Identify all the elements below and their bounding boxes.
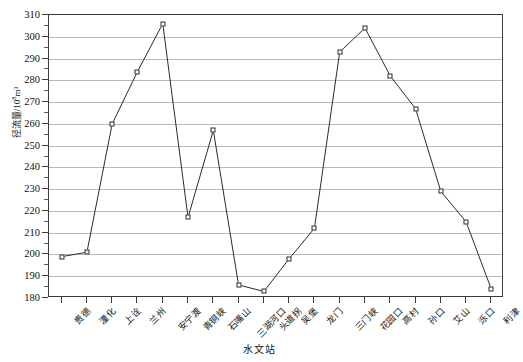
x-axis-tick-label: 艾山	[450, 305, 472, 327]
x-axis-tick-mark	[364, 297, 365, 303]
data-point	[287, 256, 292, 261]
data-point	[110, 121, 115, 126]
data-point	[236, 282, 241, 287]
data-point	[438, 189, 443, 194]
y-axis-tick-label: 280	[0, 74, 40, 85]
y-axis-tick-label: 270	[0, 96, 40, 107]
data-point	[160, 21, 165, 26]
data-point	[186, 215, 191, 220]
y-axis-tick-label: 290	[0, 52, 40, 63]
y-axis-tick-label: 180	[0, 292, 40, 303]
x-axis-tick-label: 青铜峡	[200, 305, 228, 333]
data-point	[413, 106, 418, 111]
series-polyline	[49, 15, 504, 298]
x-axis-tick-label: 泺口	[475, 305, 497, 327]
x-axis-tick-label: 上诠	[121, 305, 143, 327]
data-point	[489, 287, 494, 292]
x-axis-tick-label: 安宁渡	[175, 305, 203, 333]
y-axis-tick-label: 220	[0, 204, 40, 215]
y-axis-tick-label: 190	[0, 270, 40, 281]
x-axis-tick-mark	[288, 297, 289, 303]
data-point	[388, 73, 393, 78]
x-axis-tick-mark	[490, 297, 491, 303]
data-point	[464, 219, 469, 224]
data-point	[312, 226, 317, 231]
y-axis-tick-mark	[42, 297, 48, 298]
data-point	[211, 128, 216, 133]
x-axis-tick-label: 三门峡	[352, 305, 380, 333]
x-axis-tick-mark	[313, 297, 314, 303]
y-axis-tick-label: 200	[0, 248, 40, 259]
x-axis-title: 水文站	[0, 341, 518, 356]
x-axis-tick-mark	[187, 297, 188, 303]
y-axis-tick-label: 210	[0, 226, 40, 237]
x-axis-tick-mark	[339, 297, 340, 303]
plot-area	[48, 14, 503, 297]
y-axis-tick-label: 260	[0, 117, 40, 128]
x-axis-tick-label: 利津	[501, 305, 523, 327]
x-axis-tick-mark	[238, 297, 239, 303]
y-axis-tick-label: 310	[0, 9, 40, 20]
x-axis-tick-label: 龙门	[324, 305, 346, 327]
x-axis-tick-mark	[465, 297, 466, 303]
x-axis-tick-mark	[212, 297, 213, 303]
x-axis-tick-mark	[415, 297, 416, 303]
x-axis-tick-mark	[389, 297, 390, 303]
x-axis-tick-mark	[136, 297, 137, 303]
x-axis-tick-mark	[61, 297, 62, 303]
y-axis-title: 径流量/108m³	[10, 53, 23, 173]
y-axis-tick-label: 250	[0, 139, 40, 150]
x-axis-tick-label: 兰州	[147, 305, 169, 327]
y-axis-tick-label: 300	[0, 30, 40, 41]
data-point	[337, 50, 342, 55]
x-axis-tick-label: 吴堡	[298, 305, 320, 327]
y-axis-tick-label: 240	[0, 161, 40, 172]
x-axis-tick-label: 高村	[400, 305, 422, 327]
data-point	[261, 289, 266, 294]
x-axis-tick-label: 潼化	[96, 305, 118, 327]
data-point	[135, 69, 140, 74]
x-axis-tick-label: 石嘴山	[225, 305, 253, 333]
x-axis-tick-mark	[162, 297, 163, 303]
x-axis-tick-mark	[86, 297, 87, 303]
data-point	[59, 254, 64, 259]
x-axis-tick-label: 孙口	[425, 305, 447, 327]
x-axis-tick-mark	[111, 297, 112, 303]
y-axis-tick-label: 230	[0, 183, 40, 194]
x-axis-tick-mark	[263, 297, 264, 303]
x-axis-tick-label: 贵德	[71, 305, 93, 327]
x-axis-tick-mark	[440, 297, 441, 303]
data-point	[84, 250, 89, 255]
data-point	[362, 26, 367, 31]
